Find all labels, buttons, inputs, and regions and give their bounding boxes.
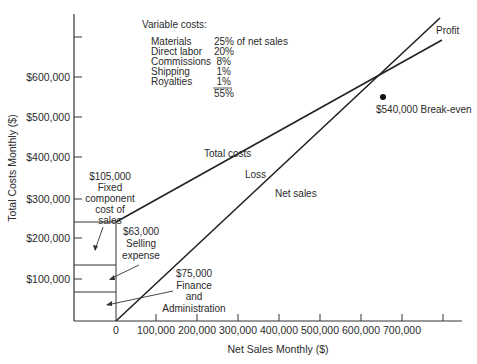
- svg-text:Fixed: Fixed: [98, 182, 122, 193]
- svg-text:$100,000: $100,000: [26, 273, 70, 285]
- svg-text:$500,000: $500,000: [26, 111, 70, 123]
- svg-text:0: 0: [113, 324, 119, 336]
- profit-label: Profit: [436, 25, 460, 36]
- svg-text:$600,000: $600,000: [26, 71, 70, 83]
- y-ticks: [74, 37, 82, 279]
- svg-text:Selling: Selling: [126, 238, 156, 249]
- svg-text:$75,000: $75,000: [176, 268, 213, 279]
- svg-text:$400,000: $400,000: [26, 151, 70, 163]
- total-costs-label: Total costs: [204, 148, 251, 159]
- svg-text:expense: expense: [122, 250, 160, 261]
- svg-text:$300,000: $300,000: [26, 193, 70, 205]
- loss-label: Loss: [245, 169, 266, 180]
- net-sales-label: Net sales: [275, 188, 317, 199]
- x-ticks: [156, 314, 443, 321]
- break-even-chart: $600,000 $500,000 $400,000 $300,000 $200…: [0, 0, 477, 364]
- arrowhead-icon: [106, 301, 112, 306]
- svg-text:500,000: 500,000: [301, 324, 339, 336]
- svg-text:Royalties: Royalties: [151, 76, 192, 87]
- svg-text:100,000: 100,000: [137, 324, 175, 336]
- arrowhead-icon: [93, 245, 98, 251]
- svg-text:component: component: [85, 193, 135, 204]
- fixed-cost-label-selling: $63,000 Selling expense: [122, 226, 160, 261]
- svg-text:Finance: Finance: [176, 280, 212, 291]
- svg-text:55%: 55%: [214, 88, 234, 99]
- x-axis-title: Net Sales Monthly ($): [228, 343, 329, 355]
- svg-text:cost of: cost of: [95, 204, 125, 215]
- fixed-cost-bands: [74, 222, 116, 321]
- y-axis-title: Total Costs Monthly ($): [6, 114, 18, 221]
- svg-text:Administration: Administration: [162, 303, 225, 314]
- svg-text:$200,000: $200,000: [26, 232, 70, 244]
- variable-costs-table: Variable costs: Materials 25% of net sal…: [142, 19, 288, 99]
- break-even-label: $540,000 Break-even: [376, 104, 472, 115]
- svg-text:400,000: 400,000: [260, 324, 298, 336]
- svg-text:700,000: 700,000: [383, 324, 421, 336]
- y-tick-labels: $600,000 $500,000 $400,000 $300,000 $200…: [26, 71, 70, 285]
- x-tick-labels: 0 100,000 200,000 300,000 400,000 500,00…: [113, 324, 421, 336]
- svg-text:200,000: 200,000: [178, 324, 216, 336]
- svg-text:1%: 1%: [217, 76, 232, 87]
- svg-text:$105,000: $105,000: [89, 171, 131, 182]
- svg-text:and: and: [186, 291, 203, 302]
- svg-text:$63,000: $63,000: [123, 226, 160, 237]
- fixed-cost-label-cost-of-sales: $105,000 Fixed component cost of sales: [85, 171, 135, 226]
- arrowhead-icon: [109, 275, 115, 280]
- break-even-point: [380, 94, 386, 100]
- svg-text:sales: sales: [98, 215, 121, 226]
- svg-text:300,000: 300,000: [219, 324, 257, 336]
- svg-text:600,000: 600,000: [342, 324, 380, 336]
- svg-text:Variable costs:: Variable costs:: [142, 19, 207, 30]
